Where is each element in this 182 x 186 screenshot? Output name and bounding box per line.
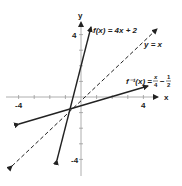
- y-axis: [79, 22, 83, 176]
- y-tick-label-4: 4: [72, 31, 77, 40]
- label-identity: y = x: [143, 40, 163, 49]
- x-tick-label-neg4: -4: [15, 101, 23, 110]
- label-f-inverse-prefix: f⁻¹(x) =: [126, 77, 152, 86]
- label-f: f(x) = 4x + 2: [93, 26, 138, 35]
- line-f-inverse: [19, 86, 148, 124]
- x-axis-label: x: [164, 93, 169, 102]
- line-f: [57, 27, 91, 160]
- y-axis-label: y: [78, 11, 83, 20]
- x-axis: [6, 95, 158, 99]
- label-f-inverse: f⁻¹(x) = x 4 − 1 2: [126, 74, 171, 88]
- minus-sign: −: [160, 77, 165, 86]
- line-identity: [12, 29, 157, 166]
- x-tick-label-4: 4: [141, 101, 146, 110]
- graph: x y -4 4 4 -4 f(x) = 4x + 2 y = x f⁻¹(x)…: [0, 0, 182, 186]
- y-tick-label-neg4: -4: [71, 156, 79, 165]
- frac-num-1: 1: [167, 74, 171, 80]
- frac-num-x: x: [153, 74, 158, 80]
- frac-den-4: 4: [154, 82, 158, 88]
- frac-den-2: 2: [167, 82, 171, 88]
